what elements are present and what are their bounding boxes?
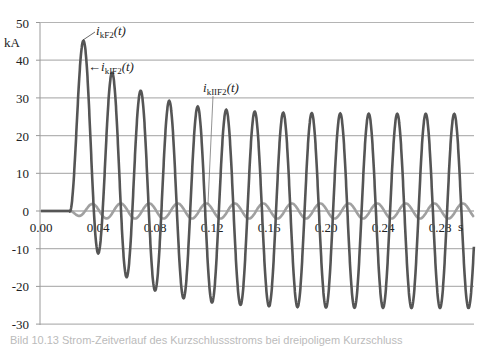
annotation-ikIIF2: ikIIF2(t)	[203, 80, 239, 97]
annotation-ikF2: ikF2(t)	[96, 23, 126, 40]
x-unit-label: s	[458, 219, 463, 234]
x-tick-label: 0.04	[87, 220, 110, 235]
x-tick-label: 0.08	[144, 220, 167, 235]
x-tick-label: 0.28	[429, 220, 452, 235]
figure-caption: Bild 10.13 Strom-Zeitverlauf des Kurzsch…	[10, 334, 480, 346]
y-tick-label: 30	[16, 91, 29, 106]
y-tick-label: 40	[16, 53, 29, 68]
annotation-ikIF2: ←ikIF2(t)	[88, 59, 134, 76]
x-tick-label: 0.00	[30, 220, 53, 235]
y-unit-label: kA	[4, 35, 21, 50]
series-ikF2-line	[41, 41, 474, 308]
annotation-ikIIF2-leader	[208, 96, 213, 204]
annotation-ikF2-leader	[83, 32, 95, 40]
y-tick-label: 20	[16, 129, 29, 144]
x-tick-label: 0.12	[201, 220, 224, 235]
y-tick-label: 50	[16, 16, 29, 31]
x-tick-label: 0.16	[258, 220, 281, 235]
x-tick-label: 0.20	[315, 220, 338, 235]
y-tick-label: -30	[12, 317, 29, 332]
y-tick-label: -20	[12, 279, 29, 294]
y-axis-ticks: 50403020100-10-20-30	[12, 16, 40, 333]
y-tick-label: -10	[12, 242, 29, 257]
y-tick-label: 10	[16, 166, 29, 181]
line-chart: 50403020100-10-20-30 0.000.040.080.120.1…	[0, 0, 490, 348]
y-tick-label: 0	[23, 204, 30, 219]
